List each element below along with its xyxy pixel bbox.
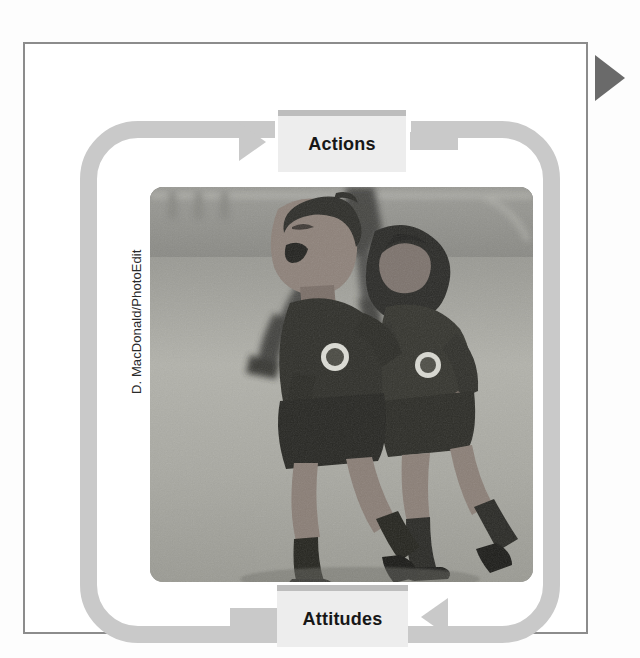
node-attitudes-label: Attitudes <box>303 609 383 630</box>
page-bleed-through-top <box>60 0 580 32</box>
node-actions[interactable]: Actions <box>278 110 406 172</box>
arrow-left-icon <box>421 598 448 636</box>
node-attitudes[interactable]: Attitudes <box>277 585 408 647</box>
loop-stub-top-right <box>410 132 458 150</box>
node-actions-label: Actions <box>308 134 375 155</box>
loop-stub-bottom-left <box>230 608 280 626</box>
arrow-right-icon <box>239 123 266 161</box>
triangle-right-icon <box>595 55 625 101</box>
photograph-soccer-players <box>150 187 533 582</box>
figure-frame: D. MacDonald/PhotoEdit Actions Attitudes <box>23 42 588 634</box>
photo-credit: D. MacDonald/PhotoEdit <box>129 194 147 394</box>
